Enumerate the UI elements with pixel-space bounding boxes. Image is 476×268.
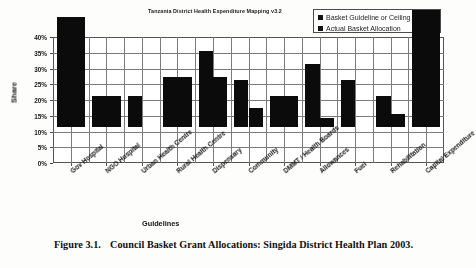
bar-guideline (341, 80, 355, 127)
bar-actual (391, 114, 405, 127)
y-tick-label: 5% (21, 144, 47, 151)
figure-caption: Figure 3.1.Council Basket Grant Allocati… (0, 239, 467, 250)
gridline-vertical-minor (355, 37, 356, 163)
y-tick-mark (50, 53, 53, 54)
bar-guideline (92, 96, 106, 128)
bar-actual (177, 77, 191, 127)
y-tick-label: 0% (21, 160, 47, 167)
y-tick-mark (50, 84, 53, 85)
gridline-vertical (231, 37, 232, 163)
chart-title: Tanzania District Health Expenditure Map… (95, 8, 335, 14)
bar-guideline (305, 64, 319, 127)
bar-actual (71, 17, 85, 127)
y-tick-mark (50, 100, 53, 101)
gridline-vertical (337, 37, 338, 163)
caption-number: Figure 3.1. (54, 239, 101, 250)
bar-guideline (376, 96, 390, 128)
y-tick-mark (50, 132, 53, 133)
y-tick-mark (50, 147, 53, 148)
bar-guideline (234, 80, 248, 127)
figure-container: Tanzania District Health Expenditure Map… (0, 0, 467, 232)
gridline-vertical (266, 37, 267, 163)
bar-actual (213, 77, 227, 127)
gridline-vertical-minor (391, 37, 392, 163)
legend-label-actual: Actual Basket Allocation (326, 25, 401, 32)
y-axis-title: Share (10, 70, 19, 116)
legend-swatch-icon (318, 26, 323, 31)
bar-actual (284, 96, 298, 128)
gridline-vertical (373, 37, 374, 163)
gridline-vertical-minor (142, 37, 143, 163)
y-tick-mark (50, 116, 53, 117)
y-tick-label: 20% (21, 97, 47, 104)
gridline-vertical (160, 37, 161, 163)
gridline-vertical (124, 37, 125, 163)
legend-swatch-icon (318, 15, 323, 20)
gridline-vertical (302, 37, 303, 163)
gridline-vertical (195, 37, 196, 163)
bar-guideline (128, 96, 142, 128)
bar-guideline (270, 96, 284, 128)
y-tick-label: 10% (21, 129, 47, 136)
bar-actual (426, 10, 440, 127)
y-tick-label: 15% (21, 113, 47, 120)
caption-text: Council Basket Grant Allocations: Singid… (110, 239, 413, 250)
y-tick-mark (50, 37, 53, 38)
bar-actual (249, 108, 263, 127)
gridline-vertical (408, 37, 409, 163)
y-tick-label: 25% (21, 81, 47, 88)
y-tick-label: 30% (21, 66, 47, 73)
legend-label-guideline: Basket Guideline or Ceiling (326, 14, 410, 21)
bar-guideline (412, 10, 426, 127)
gridline-vertical-minor (249, 37, 250, 163)
gridline-vertical (89, 37, 90, 163)
x-axis-title: Guidelines (142, 219, 179, 228)
y-tick-mark (50, 163, 53, 164)
bar-guideline (57, 17, 71, 127)
y-tick-label: 40% (21, 34, 47, 41)
y-tick-label: 35% (21, 50, 47, 57)
bar-actual (106, 96, 120, 128)
bar-guideline (199, 51, 213, 127)
bar-guideline (163, 77, 177, 127)
y-tick-mark (50, 69, 53, 70)
